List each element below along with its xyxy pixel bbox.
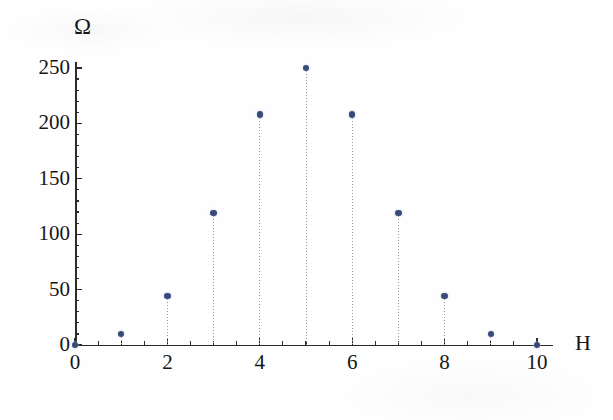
x-tick-minor xyxy=(282,341,283,345)
y-tick-major xyxy=(75,67,82,68)
data-point-marker xyxy=(72,342,78,348)
y-tick-minor xyxy=(75,245,79,246)
stem-line xyxy=(306,68,307,345)
x-tick-label: 2 xyxy=(142,352,192,373)
y-tick-minor xyxy=(75,145,79,146)
data-point-marker xyxy=(395,210,401,216)
y-tick-label: 50 xyxy=(49,279,70,300)
x-tick-minor xyxy=(513,341,514,345)
y-tick-major xyxy=(75,289,82,290)
stem-line xyxy=(213,213,214,345)
x-tick-minor xyxy=(190,341,191,345)
y-axis-title: Ω xyxy=(74,14,91,40)
y-tick-minor xyxy=(75,211,79,212)
y-tick-minor xyxy=(75,256,79,257)
x-tick-minor xyxy=(98,341,99,345)
y-tick-minor xyxy=(75,78,79,79)
x-tick-label: 8 xyxy=(420,352,470,373)
y-tick-minor xyxy=(75,156,79,157)
x-tick-minor xyxy=(236,341,237,345)
y-tick-major xyxy=(75,234,82,235)
y-tick-label: 150 xyxy=(39,168,71,189)
figure-container: Ω H 050100150200250 0246810 xyxy=(0,0,613,420)
y-tick-minor xyxy=(75,189,79,190)
x-tick-label: 0 xyxy=(50,352,100,373)
y-tick-minor xyxy=(75,134,79,135)
x-tick-label: 4 xyxy=(235,352,285,373)
y-axis-line xyxy=(75,62,77,346)
y-tick-minor xyxy=(75,333,79,334)
data-point-marker xyxy=(349,111,355,117)
x-tick-label: 6 xyxy=(327,352,377,373)
x-tick-minor xyxy=(144,341,145,345)
data-point-marker xyxy=(257,111,263,117)
x-tick-label: 10 xyxy=(512,352,562,373)
y-tick-minor xyxy=(75,267,79,268)
data-point-marker xyxy=(164,293,170,299)
y-tick-major xyxy=(75,178,82,179)
y-tick-minor xyxy=(75,311,79,312)
y-tick-minor xyxy=(75,322,79,323)
x-tick-minor xyxy=(329,341,330,345)
y-tick-minor xyxy=(75,112,79,113)
y-tick-label: 200 xyxy=(39,112,71,133)
y-tick-minor xyxy=(75,90,79,91)
x-tick-minor xyxy=(467,341,468,345)
data-point-marker xyxy=(118,331,124,337)
stem-line xyxy=(444,296,445,345)
x-tick-minor xyxy=(421,341,422,345)
data-point-marker xyxy=(210,210,216,216)
y-tick-minor xyxy=(75,200,79,201)
y-tick-minor xyxy=(75,223,79,224)
stem-line xyxy=(352,115,353,345)
y-tick-major xyxy=(75,123,82,124)
x-tick-minor xyxy=(375,341,376,345)
y-tick-minor xyxy=(75,167,79,168)
y-tick-minor xyxy=(75,300,79,301)
x-axis-line xyxy=(75,345,553,347)
data-point-marker xyxy=(488,331,494,337)
y-tick-label: 100 xyxy=(39,223,71,244)
data-point-marker xyxy=(534,342,540,348)
x-axis-title: H xyxy=(575,330,591,356)
stem-line xyxy=(259,115,260,345)
data-point-marker xyxy=(303,65,309,71)
stem-plot: Ω H 050100150200250 0246810 xyxy=(0,0,613,420)
data-point-marker xyxy=(441,293,447,299)
stem-line xyxy=(167,296,168,345)
y-tick-minor xyxy=(75,101,79,102)
y-tick-label: 250 xyxy=(39,57,71,78)
stem-line xyxy=(398,213,399,345)
y-tick-minor xyxy=(75,278,79,279)
